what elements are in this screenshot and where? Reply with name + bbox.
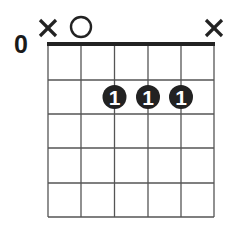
- finger-dot-string-4: 1: [103, 85, 127, 109]
- finger-number: 1: [109, 86, 121, 109]
- finger-dot-string-2: 1: [169, 85, 193, 109]
- nut: [47, 42, 215, 46]
- string-lines: [48, 44, 214, 217]
- finger-number: 1: [142, 86, 154, 109]
- open-marker-string-5: [71, 17, 91, 37]
- finger-dot-string-3: 1: [136, 85, 160, 109]
- muted-marker-string-6: [40, 20, 56, 36]
- finger-number: 1: [175, 86, 187, 109]
- muted-marker-string-1: [206, 20, 222, 36]
- chord-diagram: 1 1 1: [0, 0, 234, 234]
